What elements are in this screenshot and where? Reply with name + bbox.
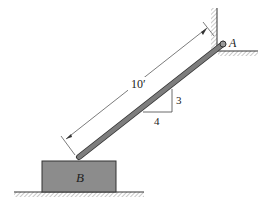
rod (79, 41, 226, 157)
block-label: B (76, 170, 84, 185)
length-dimension: 10′ (61, 22, 214, 155)
slope-run-label: 4 (154, 115, 160, 127)
ledge-floor (217, 51, 258, 56)
pin-label: A (228, 36, 237, 50)
slope-rise-label: 3 (176, 94, 182, 106)
wall-support (211, 8, 217, 52)
block-b: B (42, 161, 116, 192)
length-label: 10′ (131, 77, 146, 91)
pin-a-icon (220, 41, 226, 47)
diagram-canvas: B A 10′ 3 4 (0, 0, 274, 206)
ground (14, 192, 144, 197)
